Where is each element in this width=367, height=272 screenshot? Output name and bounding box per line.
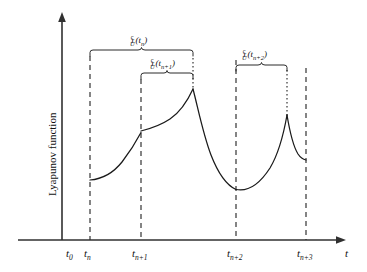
brace-tn1 (141, 71, 193, 80)
x-tick-label-t0: t0 (66, 248, 73, 259)
tau-argument-tn2: (tn+2) (248, 49, 267, 59)
tau-argument-tn: (tn) (136, 35, 148, 45)
brace-label-tn: τcU(tn) (131, 36, 153, 45)
axes-group (18, 12, 346, 244)
x-tick-tn1-sub: n+1 (135, 253, 148, 262)
curve-segment-rise-tn1 (141, 89, 193, 131)
y-axis-arrow-icon (58, 12, 66, 22)
x-tick-tn-sub: n (87, 253, 91, 262)
x-axis-arrow-icon (336, 236, 346, 244)
curve-segment-rise-tn (90, 133, 141, 181)
x-tick-label-tn1: tn+1 (132, 248, 148, 259)
tau-argument-tn1: (tn+1) (156, 58, 175, 68)
brace-tn2 (236, 63, 287, 72)
tau-subscript-u-tn1: U (150, 63, 155, 70)
x-axis-name: t (345, 248, 348, 259)
lyapunov-curve-group (90, 89, 306, 190)
brace-tn (90, 48, 193, 57)
x-tick-label-tn2: tn+2 (227, 248, 243, 259)
tau-subscript-u-tn: U (130, 40, 135, 47)
curve-segment-rise-tn2 (236, 115, 287, 190)
brace-label-tn2: τcU(tn+2) (243, 50, 273, 59)
x-tick-label-tn: tn (84, 248, 91, 259)
x-tick-tn3-sub: n+3 (300, 253, 313, 262)
curve-segment-decay-to-tn2 (193, 89, 236, 190)
curve-segment-decay-after-peak2 (287, 115, 306, 160)
y-axis-title: Lyapunov function (46, 113, 58, 196)
vertical-guide-lines (90, 56, 306, 240)
lyapunov-function-figure: Lyapunov function t0 tn tn+1 tn+2 tn+3 t… (0, 0, 367, 272)
tau-subscript-u-tn2: U (242, 54, 247, 61)
x-tick-tn2-sub: n+2 (230, 253, 243, 262)
brace-label-tn1: τcU(tn+1) (151, 59, 181, 68)
x-tick-t0-sub: 0 (69, 253, 73, 262)
x-tick-label-tn3: tn+3 (297, 248, 313, 259)
